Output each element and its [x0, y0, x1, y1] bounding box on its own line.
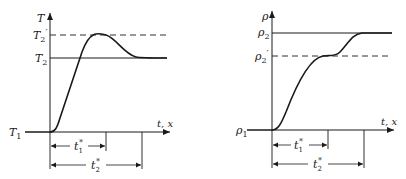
initial-level-label: ρ1	[235, 124, 248, 139]
overshoot-label: T2′	[33, 28, 47, 44]
y-axis-label: T	[37, 12, 46, 25]
x-axis-label: t, x	[381, 116, 397, 127]
temperature-panel: T T2′ T2 T1 t, x t1* t2*	[9, 12, 173, 174]
t1-star-label: t1*	[74, 138, 83, 155]
temperature-curve	[25, 34, 167, 132]
t2-star-label: t2*	[91, 157, 100, 174]
y-axis-label: ρ	[261, 10, 269, 23]
t2-star-label: t2*	[313, 156, 322, 173]
final-level-label: T2	[35, 52, 47, 67]
final-level-label: ρ2	[257, 26, 270, 41]
density-curve	[247, 33, 392, 130]
relaxation-diagram: T T2′ T2 T1 t, x t1* t2* ρ ρ2 ρ2′ ρ1 t, …	[0, 0, 406, 179]
initial-level-label: T1	[9, 126, 21, 141]
t1-star-label: t1*	[294, 137, 303, 154]
intermediate-label: ρ2′	[254, 49, 269, 65]
x-axis-label: t, x	[157, 118, 173, 129]
density-panel: ρ ρ2 ρ2′ ρ1 t, x t1* t2*	[235, 10, 397, 173]
